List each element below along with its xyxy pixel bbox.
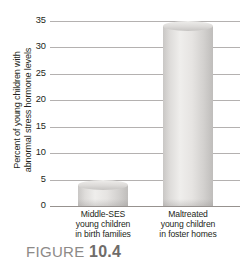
- x-axis-label-maltreated: Maltreated young children in foster home…: [159, 209, 216, 239]
- y-axis-title-line-1: Percent of young children with: [12, 51, 23, 168]
- bar-bottom-shade-2: [163, 199, 213, 206]
- gridline-35: 35: [50, 21, 240, 22]
- gridline-0-baseline: 0: [50, 206, 240, 207]
- y-tick-label-25: 25: [36, 69, 46, 78]
- x-axis-label-1-line-1: Middle-SES: [81, 209, 125, 219]
- bar-middle-ses-young-children-in-birth-families: [78, 185, 128, 206]
- y-tick-label-10: 10: [36, 148, 46, 157]
- y-axis-title-line-2: abnormal stress hormone levels: [23, 48, 34, 172]
- plot-area: 35 30 25 20 15 10 5 0: [50, 21, 240, 206]
- y-tick-label-20: 20: [36, 96, 46, 105]
- y-tick-label-0: 0: [41, 201, 46, 210]
- x-axis-label-middle-ses: Middle-SES young children in birth famil…: [75, 209, 131, 239]
- bar-bottom-shade-1: [78, 199, 128, 206]
- x-axis-label-2-line-2: young children: [161, 219, 216, 229]
- bar-cap-2: [163, 21, 213, 31]
- x-axis-label-1-line-2: young children: [76, 219, 131, 229]
- y-tick-label-15: 15: [36, 122, 46, 131]
- y-tick-label-35: 35: [36, 16, 46, 25]
- y-tick-label-30: 30: [36, 43, 46, 52]
- bar-maltreated-young-children-in-foster-homes: [163, 26, 213, 206]
- bar-cap-1: [78, 180, 128, 190]
- figure-caption-number: 10.4: [89, 243, 121, 260]
- figure-caption: FIGURE 10.4: [26, 243, 121, 260]
- x-axis-label-2-line-1: Maltreated: [168, 209, 208, 219]
- y-axis-title: Percent of young children with abnormal …: [8, 12, 38, 208]
- x-axis-label-2-line-3: in foster homes: [159, 229, 216, 239]
- figure-caption-prefix: FIGURE: [26, 243, 84, 260]
- y-tick-label-5: 5: [41, 175, 46, 184]
- x-axis-label-1-line-3: in birth families: [75, 229, 131, 239]
